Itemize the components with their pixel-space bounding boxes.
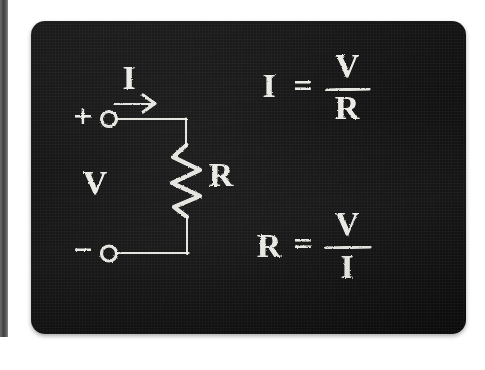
current-formula-numerator: V: [335, 47, 360, 84]
positive-terminal-node: [102, 112, 117, 127]
negative-terminal-label: −: [73, 231, 92, 268]
wire-bottom-vertical: [187, 217, 188, 253]
chalkboard-panel: I + − V R: [31, 21, 466, 334]
resistance-formula-equals: =: [293, 225, 312, 262]
resistor-zigzag: [172, 145, 200, 217]
voltage-label: V: [83, 164, 108, 201]
resistance-formula-denominator: I: [340, 248, 353, 285]
negative-terminal-node: [102, 246, 117, 261]
page-root: I + − V R: [0, 0, 485, 370]
positive-terminal-label: +: [73, 97, 92, 134]
current-label: I: [122, 59, 135, 96]
chalk-drawing: I + − V R: [31, 21, 466, 334]
wire-top-horizontal: [117, 119, 186, 120]
current-formula-denominator: R: [335, 89, 360, 126]
current-arrow-icon: [115, 95, 155, 112]
resistance-formula: R = V I: [257, 205, 370, 285]
resistance-formula-lhs: R: [257, 227, 282, 264]
resistance-formula-numerator: V: [335, 205, 360, 242]
resistance-label: R: [209, 156, 234, 193]
current-formula-equals: =: [293, 67, 312, 104]
wire-top-vertical: [186, 120, 187, 146]
wire-bottom-horizontal: [117, 253, 188, 254]
current-formula: I = V R: [262, 47, 369, 126]
current-formula-lhs: I: [262, 67, 275, 104]
left-edge-strip: [0, 0, 8, 337]
